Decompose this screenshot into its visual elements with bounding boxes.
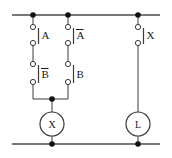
top-node-branch-2 (65, 12, 71, 18)
top-node-branch-1 (30, 12, 36, 18)
contact-b-not-terminal-bottom (30, 79, 35, 84)
contact-x-terminal-bottom (135, 40, 140, 45)
coil-x-label: X (48, 119, 56, 130)
contact-b-label: B (77, 68, 84, 80)
contact-x-label: X (147, 29, 155, 41)
bottom-node-lamp-l (135, 141, 141, 147)
contact-b-not[interactable]: B (30, 61, 48, 84)
circuit-diagram-canvas: A A B B X (0, 0, 172, 158)
contact-a-not[interactable]: A (65, 24, 84, 45)
contact-b-terminal-bottom (65, 79, 70, 84)
contact-b-terminal-top (65, 61, 70, 66)
contact-b-not-label: B (42, 68, 49, 80)
contact-a[interactable]: A (30, 24, 49, 45)
lamp-l[interactable]: L (126, 112, 150, 136)
contact-b-not-terminal-top (30, 61, 35, 66)
contact-a-not-terminal-top (65, 24, 70, 29)
contact-x[interactable]: X (135, 24, 154, 45)
contact-a-label: A (42, 29, 50, 41)
contact-a-not-terminal-bottom (65, 40, 70, 45)
lamp-l-label: L (135, 119, 141, 130)
contact-a-terminal-top (30, 24, 35, 29)
contact-x-terminal-top (135, 24, 140, 29)
bottom-node-coil-x (49, 141, 55, 147)
contact-a-terminal-bottom (30, 40, 35, 45)
contact-a-not-label: A (77, 29, 85, 41)
contact-b[interactable]: B (65, 61, 83, 84)
ladder-diagram-svg: A A B B X (0, 0, 172, 158)
coil-x[interactable]: X (40, 112, 64, 136)
merge-node-coil-x (49, 96, 55, 102)
top-node-branch-3 (135, 12, 141, 18)
